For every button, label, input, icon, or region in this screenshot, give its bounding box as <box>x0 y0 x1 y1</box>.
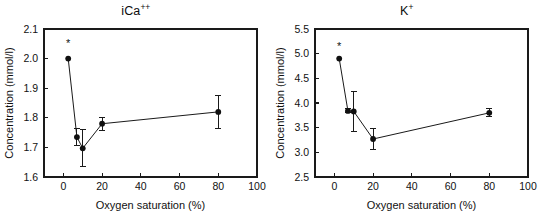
x-tick-label: 0 <box>331 180 337 192</box>
y-tick-label: 4.0 <box>294 97 309 109</box>
y-tick-label: 4.5 <box>294 72 309 84</box>
y-tick-label: 5.0 <box>294 47 309 59</box>
data-point <box>486 110 492 116</box>
x-tick-label: 60 <box>445 180 457 192</box>
x-tick-label: 100 <box>519 180 537 192</box>
plot-frame <box>44 29 257 177</box>
data-point <box>65 56 71 62</box>
series-line <box>68 59 218 149</box>
figure-root: iCa++ 1.61.71.81.92.02.1020406080100Oxyg… <box>0 0 542 219</box>
y-tick-label: 1.9 <box>23 82 38 94</box>
x-tick-label: 40 <box>135 180 147 192</box>
significance-star: * <box>66 37 71 49</box>
plot-canvas-ica: 1.61.71.81.92.02.1020406080100Oxygen sat… <box>0 0 271 219</box>
x-tick-label: 60 <box>174 180 186 192</box>
x-tick-label: 100 <box>248 180 266 192</box>
chart-panel-ica: iCa++ 1.61.71.81.92.02.1020406080100Oxyg… <box>0 0 271 219</box>
plot-canvas-k: 2.53.03.54.04.55.05.5020406080100Oxygen … <box>271 0 542 219</box>
y-tick-label: 2.0 <box>23 52 38 64</box>
y-tick-label: 1.6 <box>23 171 38 183</box>
data-point <box>351 108 357 114</box>
data-point <box>215 109 221 115</box>
x-tick-label: 20 <box>96 180 108 192</box>
x-axis-title: Oxygen saturation (%) <box>96 199 205 211</box>
data-point <box>345 108 351 114</box>
series-line <box>339 59 489 139</box>
data-point <box>80 145 86 151</box>
data-point <box>99 121 105 127</box>
y-axis-title: Concentration (mmol/l) <box>3 47 15 158</box>
x-tick-label: 20 <box>367 180 379 192</box>
x-tick-label: 80 <box>483 180 495 192</box>
y-tick-label: 3.5 <box>294 121 309 133</box>
y-tick-label: 5.5 <box>294 23 309 35</box>
data-point <box>370 136 376 142</box>
data-point <box>74 134 80 140</box>
data-point <box>336 56 342 62</box>
y-tick-label: 2.1 <box>23 23 38 35</box>
y-tick-label: 2.5 <box>294 171 309 183</box>
x-tick-label: 40 <box>406 180 418 192</box>
significance-star: * <box>337 40 342 52</box>
y-tick-label: 3.0 <box>294 146 309 158</box>
y-tick-label: 1.8 <box>23 111 38 123</box>
y-axis-title: Concentration (mmol/l) <box>274 47 286 158</box>
x-axis-title: Oxygen saturation (%) <box>367 199 476 211</box>
x-tick-label: 80 <box>212 180 224 192</box>
x-tick-label: 0 <box>60 180 66 192</box>
y-tick-label: 1.7 <box>23 141 38 153</box>
chart-panel-k: K+ 2.53.03.54.04.55.05.5020406080100Oxyg… <box>271 0 542 219</box>
